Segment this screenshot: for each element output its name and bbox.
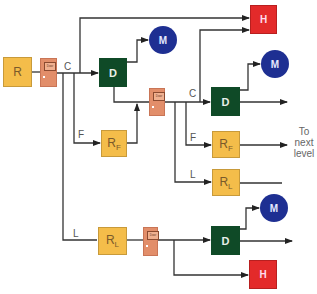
rf2-label: RF (219, 137, 233, 153)
door1-node: Door (40, 58, 57, 87)
rf1-label: RF (107, 136, 121, 152)
rl2-node: RL (212, 169, 240, 196)
edge-label-f2: F (190, 132, 196, 143)
h1-label: H (260, 14, 267, 25)
rf1-node: RF (101, 130, 127, 157)
d1-label: D (109, 67, 117, 79)
rl2-label: RL (219, 175, 232, 191)
d2-node: D (211, 87, 240, 116)
d2-label: D (222, 96, 230, 108)
door3-label: Door (147, 231, 159, 240)
h1-node: H (250, 5, 277, 34)
door2-label: Door (153, 92, 165, 101)
door-knob-icon (146, 245, 148, 247)
edge-label-c2: C (189, 88, 196, 99)
d3-node: D (211, 226, 240, 255)
door3-node: Door (143, 227, 158, 256)
edge-label-c1: C (64, 61, 71, 72)
d1-node: D (99, 58, 127, 87)
rl1-label: RL (106, 233, 119, 249)
edge-label-l1: L (73, 228, 79, 239)
d3-label: D (222, 235, 230, 247)
rl1-node: RL (98, 227, 127, 255)
m3-label: M (270, 203, 278, 214)
rf2-node: RF (212, 131, 240, 158)
note-line-2: next (291, 137, 317, 148)
door-knob-icon (43, 76, 45, 78)
h2-label: H (259, 269, 266, 280)
door1-label: Door (44, 62, 56, 71)
m2-label: M (271, 59, 279, 70)
to-next-level-note: To next level (291, 126, 317, 159)
edge-label-f1: F (78, 129, 84, 140)
h2-node: H (249, 260, 277, 289)
m3-node: M (260, 194, 288, 222)
root-node: R (3, 57, 32, 87)
door2-node: Door (149, 88, 165, 116)
m1-label: M (159, 35, 167, 46)
m2-node: M (261, 50, 289, 78)
note-line-1: To (291, 126, 317, 137)
root-label: R (13, 65, 22, 79)
edge-label-l2: L (190, 169, 196, 180)
note-line-3: level (291, 148, 317, 159)
m1-node: M (149, 26, 177, 54)
door-knob-icon (152, 106, 154, 108)
